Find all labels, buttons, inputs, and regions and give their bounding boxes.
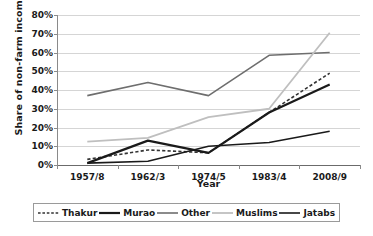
y-tick-label: 20% <box>19 123 53 133</box>
x-axis-line <box>57 165 360 166</box>
legend-item-murao[interactable]: Murao <box>99 208 155 218</box>
x-tick-mark <box>239 165 240 169</box>
y-tick-label: 70% <box>19 29 53 39</box>
x-tick-mark <box>118 165 119 169</box>
y-tick-label: 60% <box>19 48 53 58</box>
y-tick-label: 80% <box>19 10 53 20</box>
x-tick-mark <box>299 165 300 169</box>
y-tick-label: 50% <box>19 66 53 76</box>
legend-swatch-jatabs-icon <box>279 209 300 217</box>
legend-swatch-murao-icon <box>99 209 120 217</box>
x-tick-mark <box>57 165 58 169</box>
legend-label: Muslims <box>236 208 278 218</box>
line-chart: Share of non-farm income 0%10%20%30%40%5… <box>0 0 373 236</box>
legend-item-muslims[interactable]: Muslims <box>212 208 278 218</box>
y-tick-label: 10% <box>19 141 53 151</box>
legend-swatch-muslims-icon <box>212 209 233 217</box>
legend-label: Murao <box>123 208 155 218</box>
series-line-other <box>87 53 329 96</box>
series-line-jatabs <box>87 131 329 163</box>
plot-area <box>57 15 360 165</box>
y-tick-label: 0% <box>19 160 53 170</box>
legend-item-jatabs[interactable]: Jatabs <box>279 208 335 218</box>
x-axis-title: Year <box>57 178 360 189</box>
legend-label: Other <box>181 208 210 218</box>
legend-item-other[interactable]: Other <box>157 208 210 218</box>
legend-swatch-other-icon <box>157 209 178 217</box>
y-tick-label: 40% <box>19 85 53 95</box>
x-tick-mark <box>178 165 179 169</box>
chart-legend: ThakurMuraoOtherMuslimsJatabs <box>33 203 340 222</box>
x-tick-mark <box>360 165 361 169</box>
series-layer <box>57 15 360 165</box>
legend-item-thakur[interactable]: Thakur <box>38 208 97 218</box>
y-tick-label: 30% <box>19 104 53 114</box>
legend-label: Jatabs <box>303 208 335 218</box>
legend-label: Thakur <box>62 208 97 218</box>
legend-swatch-thakur-icon <box>38 209 59 217</box>
